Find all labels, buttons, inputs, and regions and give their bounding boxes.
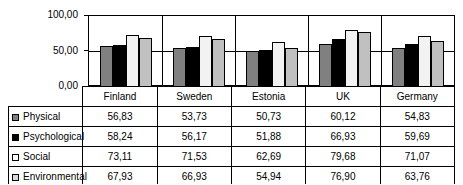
legend-swatch-icon <box>12 174 19 181</box>
bar-finland-environmental <box>139 38 152 86</box>
table-header-row: Finland Sweden Estonia UK Germany <box>9 87 455 107</box>
data-table: Finland Sweden Estonia UK Germany Physic… <box>8 86 455 184</box>
legend-item-label: Social <box>23 151 50 162</box>
bar-estonia-psychological <box>259 50 272 86</box>
legend-item-label: Physical <box>23 111 60 122</box>
table-body: Physical56,8353,7350,7360,1254,83Psychol… <box>9 107 455 185</box>
column-header-estonia: Estonia <box>231 87 305 107</box>
bar-uk-social <box>345 30 358 86</box>
cell-environmental-sweden: 66,93 <box>157 167 231 185</box>
bar-estonia-physical <box>246 51 259 87</box>
table-row: Social73,1171,5362,6979,6871,07 <box>9 147 455 167</box>
bar-group-finland <box>89 16 162 86</box>
table-row: Environmental67,9366,9354,9476,9063,76 <box>9 167 455 185</box>
cell-social-estonia: 62,69 <box>231 147 305 167</box>
bar-chart-with-data-table: 100,00 50,00 0,00 Finland Sweden Estonia… <box>0 0 463 184</box>
bar-estonia-social <box>272 42 285 86</box>
cell-physical-estonia: 50,73 <box>231 107 305 127</box>
bar-germany-physical <box>392 48 405 86</box>
bar-group-germany <box>381 16 454 86</box>
legend-swatch-icon <box>12 154 19 161</box>
bar-groups <box>89 16 454 86</box>
bar-estonia-environmental <box>285 48 298 86</box>
legend-item-physical: Physical <box>9 107 83 127</box>
bar-finland-physical <box>100 46 113 86</box>
bar-finland-social <box>126 35 139 86</box>
legend-item-environmental: Environmental <box>9 167 83 185</box>
bar-uk-psychological <box>332 39 345 86</box>
cell-psychological-uk: 66,93 <box>306 127 380 147</box>
legend-item-social: Social <box>9 147 83 167</box>
cell-psychological-germany: 59,69 <box>380 127 454 147</box>
plot-area <box>88 15 455 86</box>
column-header-germany: Germany <box>380 87 454 107</box>
cell-environmental-finland: 67,93 <box>83 167 157 185</box>
bar-group-estonia <box>235 16 308 86</box>
cell-social-germany: 71,07 <box>380 147 454 167</box>
bar-germany-social <box>418 36 431 86</box>
column-header-finland: Finland <box>83 87 157 107</box>
cell-psychological-finland: 58,24 <box>83 127 157 147</box>
cell-environmental-estonia: 54,94 <box>231 167 305 185</box>
cell-physical-uk: 60,12 <box>306 107 380 127</box>
y-tick-label-100: 100,00 <box>47 10 78 20</box>
bar-uk-environmental <box>358 32 371 86</box>
y-tick-label-50: 50,00 <box>53 46 78 56</box>
bar-group-uk <box>308 16 381 86</box>
legend-item-label: Environmental <box>23 171 87 182</box>
bar-sweden-physical <box>173 48 186 86</box>
table-corner-cell <box>9 87 83 107</box>
cell-environmental-germany: 63,76 <box>380 167 454 185</box>
cell-social-uk: 79,68 <box>306 147 380 167</box>
cell-psychological-estonia: 51,88 <box>231 127 305 147</box>
table-row: Psychological58,2456,1751,8866,9359,69 <box>9 127 455 147</box>
bar-sweden-social <box>199 36 212 86</box>
cell-physical-finland: 56,83 <box>83 107 157 127</box>
bar-uk-physical <box>319 44 332 86</box>
legend-item-psychological: Psychological <box>9 127 83 147</box>
cell-social-sweden: 71,53 <box>157 147 231 167</box>
legend-swatch-icon <box>12 134 19 141</box>
legend-item-label: Psychological <box>23 131 84 142</box>
bar-group-sweden <box>162 16 235 86</box>
cell-physical-sweden: 53,73 <box>157 107 231 127</box>
cell-psychological-sweden: 56,17 <box>157 127 231 147</box>
y-axis: 100,00 50,00 0,00 <box>0 0 84 92</box>
table-row: Physical56,8353,7350,7360,1254,83 <box>9 107 455 127</box>
column-header-uk: UK <box>306 87 380 107</box>
cell-environmental-uk: 76,90 <box>306 167 380 185</box>
cell-social-finland: 73,11 <box>83 147 157 167</box>
cell-physical-germany: 54,83 <box>380 107 454 127</box>
bar-finland-psychological <box>113 45 126 86</box>
bar-sweden-environmental <box>212 39 225 86</box>
bar-germany-psychological <box>405 44 418 86</box>
bar-germany-environmental <box>431 41 444 86</box>
legend-swatch-icon <box>12 114 19 121</box>
bar-sweden-psychological <box>186 47 199 86</box>
column-header-sweden: Sweden <box>157 87 231 107</box>
